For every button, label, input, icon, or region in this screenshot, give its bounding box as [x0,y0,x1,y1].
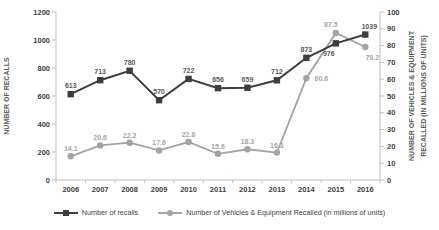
data-label: 60.6 [315,75,329,82]
data-label: 780 [124,59,136,66]
right-axis-tick-label: 80 [387,41,395,50]
data-label: 16.3 [270,142,284,149]
x-axis-tick-label: 2006 [62,185,79,194]
data-point-square [97,77,103,83]
x-axis-tick-label: 2012 [239,185,256,194]
data-label: 656 [212,76,224,83]
vehicles-line-sample-icon [158,209,182,216]
data-label: 79.2 [365,54,379,61]
left-axis-tick-label: 200 [37,148,50,157]
legend-label-vehicles: Number of Vehicles & Equipment Recalled … [186,208,385,217]
x-axis-tick-label: 2009 [151,185,168,194]
data-label: 659 [242,76,254,83]
data-label: 722 [183,67,195,74]
data-point-circle [362,44,368,50]
x-axis-tick-label: 2010 [180,185,197,194]
data-point-circle [303,75,309,81]
recalls-square-marker-icon [63,210,69,216]
data-point-square [274,77,280,83]
x-axis-tick-label: 2015 [327,185,344,194]
data-point-circle [97,142,103,148]
data-point-square [215,85,221,91]
right-axis-tick-label: 70 [387,58,395,67]
right-axis-tick-label: 20 [387,142,395,151]
data-point-square [303,55,309,61]
left-axis-tick-label: 0 [46,176,50,185]
data-label: 713 [94,68,106,75]
data-label: 1039 [361,23,377,30]
axes: 0200400600800100012000102030405060708090… [33,8,399,194]
right-axis-tick-label: 30 [387,125,395,134]
right-axis-tick-label: 100 [387,8,400,17]
left-axis-tick-label: 400 [37,120,50,129]
chart-canvas: 0200400600800100012000102030405060708090… [0,0,439,206]
data-point-square [333,40,339,46]
vehicles-circle-marker-icon [167,210,173,216]
legend-item-vehicles: Number of Vehicles & Equipment Recalled … [158,208,385,217]
recalls-line-sample-icon [54,209,78,216]
data-label: 613 [65,82,77,89]
data-label: 22.6 [182,131,196,138]
data-label: 15.6 [211,143,225,150]
left-axis-tick-label: 1000 [33,36,50,45]
right-axis-tick-label: 10 [387,159,395,168]
data-label: 18.3 [241,138,255,145]
data-point-square [244,85,250,91]
legend-item-recalls: Number of recalls [54,208,138,217]
left-axis-tick-label: 800 [37,64,50,73]
chart-legend: Number of recalls Number of Vehicles & E… [0,208,439,217]
data-point-square [185,76,191,82]
x-axis-tick-label: 2016 [357,185,374,194]
right-axis-tick-label: 50 [387,92,395,101]
data-point-square [156,97,162,103]
data-label: 570 [153,88,165,95]
data-label: 87.5 [324,21,338,28]
left-axis-tick-label: 1200 [33,8,50,17]
data-label: 976 [323,50,335,57]
x-axis-tick-label: 2011 [210,185,226,194]
right-axis-tick-label: 60 [387,75,395,84]
left-axis-title: NUMBER OF RECALLS [3,57,10,135]
right-axis-tick-label: 0 [387,176,391,185]
data-point-square [126,68,132,74]
data-point-circle [274,149,280,155]
left-axis-tick-label: 600 [37,92,50,101]
series-recalls: 6137137805707226566597128739761039 [65,23,377,104]
data-point-circle [333,30,339,36]
series-vehicles: 14.120.622.217.622.615.618.316.360.687.5… [64,21,379,160]
data-label: 22.2 [123,132,137,139]
data-point-square [362,31,368,37]
data-point-circle [68,153,74,159]
right-axis-tick-label: 40 [387,108,395,117]
data-label: 17.6 [152,139,166,146]
legend-label-recalls: Number of recalls [82,208,138,217]
data-point-square [68,91,74,97]
data-point-circle [185,139,191,145]
x-axis-tick-label: 2013 [269,185,286,194]
data-label: 873 [301,46,313,53]
recalls-dual-axis-chart: 0200400600800100012000102030405060708090… [0,0,439,230]
data-point-circle [126,140,132,146]
x-axis-tick-label: 2007 [92,185,109,194]
data-label: 20.6 [93,134,107,141]
right-axis-title-line2: RECALLED (IN MILLIONS OF UNITS) [420,35,428,157]
data-label: 14.1 [64,145,78,152]
data-point-circle [244,146,250,152]
right-axis-title-line1: NUMBER OF VEHICLES & EQUIPMENT [408,30,416,161]
x-axis-tick-label: 2014 [298,185,316,194]
x-axis-tick-label: 2008 [121,185,138,194]
data-point-circle [215,151,221,157]
data-label: 712 [271,68,283,75]
data-point-circle [156,147,162,153]
right-axis-tick-label: 90 [387,24,395,33]
